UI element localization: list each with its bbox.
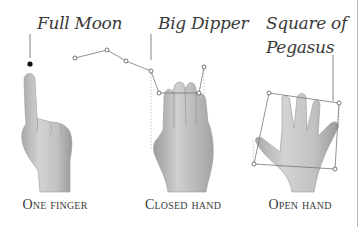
closed-hand-caption: Closed hand <box>128 197 238 213</box>
one-finger-hand-icon <box>22 73 72 192</box>
full-moon-label: Full Moon <box>37 13 122 33</box>
figure-canvas: Full Moon Big Dipper Square of Pegasus O… <box>0 0 363 227</box>
illustration <box>0 0 363 227</box>
right-border-divider <box>357 0 358 227</box>
closed-hand-icon <box>154 82 214 192</box>
panel-one-finger <box>22 34 72 192</box>
big-dipper-label: Big Dipper <box>158 13 248 33</box>
square-of-pegasus-label-line2: Pegasus <box>266 37 334 57</box>
one-finger-caption: One finger <box>5 197 105 213</box>
panel-closed-hand <box>73 34 213 192</box>
open-hand-caption: Open hand <box>250 197 350 213</box>
square-of-pegasus-label-line1: Square of <box>266 13 347 33</box>
panel-open-hand <box>252 55 341 192</box>
open-hand-icon <box>255 94 338 193</box>
full-moon-dot-icon <box>27 61 32 66</box>
